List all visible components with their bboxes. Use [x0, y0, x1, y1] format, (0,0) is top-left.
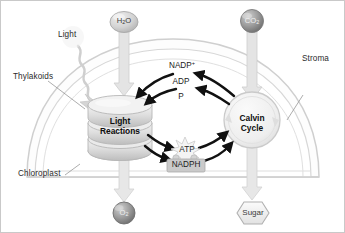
sugar-hexagon-shape — [237, 202, 269, 224]
water-molecule-shape — [110, 12, 138, 33]
oxygen-molecule-shape — [113, 202, 135, 224]
calvin-cycle-circle — [224, 92, 280, 148]
carbon-dioxide-molecule-shape — [241, 10, 264, 33]
photosynthesis-diagram: Light Thylakoids Chloroplast Stroma H2O … — [0, 0, 345, 233]
diagram-canvas — [1, 1, 345, 233]
light-reactions-granum-stack — [88, 96, 152, 161]
